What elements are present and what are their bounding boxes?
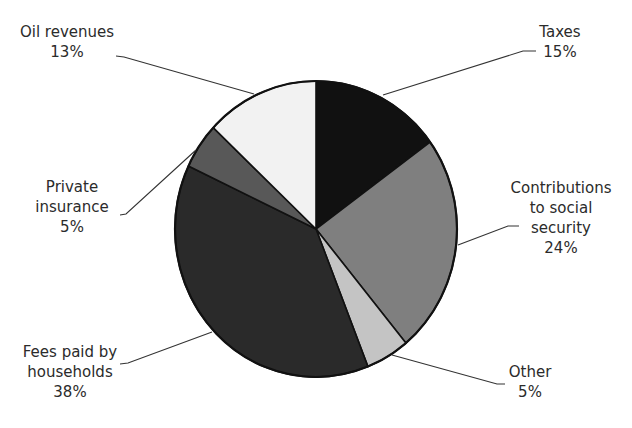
label-private-line2: insurance	[22, 197, 122, 217]
label-private-line1: Private	[22, 177, 122, 197]
label-fees-households: Fees paid by households 38%	[10, 342, 130, 402]
label-contributions-line1: Contributions	[500, 178, 622, 198]
leader-line-oil	[116, 56, 254, 94]
label-contributions-line3: security	[500, 218, 622, 238]
label-contributions-pct: 24%	[500, 238, 622, 258]
label-other: Other 5%	[500, 362, 560, 402]
label-oil-revenues: Oil revenues 13%	[12, 22, 122, 62]
label-fees-line1: Fees paid by	[10, 342, 130, 362]
label-taxes: Taxes 15%	[525, 22, 595, 62]
label-private-insurance: Private insurance 5%	[22, 177, 122, 237]
label-fees-line2: households	[10, 362, 130, 382]
label-contributions-line2: to social	[500, 198, 622, 218]
leader-line-fees	[120, 332, 212, 364]
label-taxes-pct: 15%	[525, 42, 595, 62]
label-oil-pct: 13%	[12, 42, 122, 62]
leader-line-taxes	[383, 51, 536, 95]
label-oil-name: Oil revenues	[12, 22, 122, 42]
label-other-pct: 5%	[500, 382, 560, 402]
label-contributions: Contributions to social security 24%	[500, 178, 622, 258]
label-other-name: Other	[500, 362, 560, 382]
label-private-pct: 5%	[22, 217, 122, 237]
leader-line-other	[392, 355, 505, 384]
label-taxes-name: Taxes	[525, 22, 595, 42]
label-fees-pct: 38%	[10, 382, 130, 402]
pie-slices	[175, 81, 457, 377]
